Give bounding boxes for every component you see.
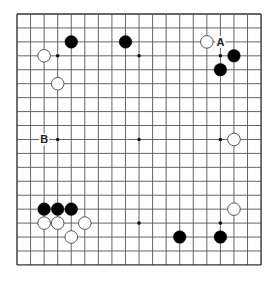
- black-stone: [214, 231, 227, 244]
- black-stone: [65, 203, 78, 216]
- star-point: [137, 221, 141, 225]
- black-stone: [65, 36, 78, 49]
- white-stone: [65, 231, 78, 244]
- star-point: [137, 54, 141, 58]
- white-stone: [38, 217, 51, 230]
- black-stone: [228, 50, 241, 63]
- star-point: [219, 138, 223, 142]
- point-label: A: [216, 36, 224, 48]
- star-point: [219, 221, 223, 225]
- white-stone: [51, 217, 64, 230]
- black-stone: [119, 36, 132, 49]
- white-stone: [201, 36, 214, 49]
- point-label: B: [40, 133, 48, 145]
- white-stone: [228, 133, 241, 146]
- white-stone: [79, 217, 92, 230]
- star-point: [137, 138, 141, 142]
- white-stone: [51, 77, 64, 90]
- point-labels: AB: [39, 36, 225, 146]
- star-point: [219, 54, 223, 58]
- black-stone: [214, 63, 227, 76]
- star-point: [56, 138, 60, 142]
- black-stone: [51, 203, 64, 216]
- white-stone: [228, 203, 241, 216]
- black-stone: [38, 203, 51, 216]
- white-stone: [38, 50, 51, 63]
- star-point: [56, 54, 60, 58]
- black-stone: [173, 231, 186, 244]
- go-board: AB: [0, 0, 276, 281]
